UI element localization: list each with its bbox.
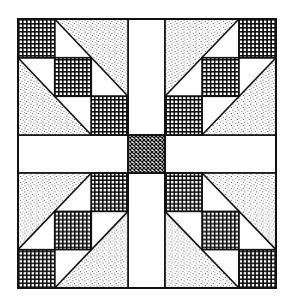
- horizontal-sash-left: [18, 135, 128, 173]
- vertical-sash-bottom: [128, 173, 165, 288]
- center-cornerstone: [128, 135, 165, 173]
- quadrant-bottom-right: [165, 173, 276, 288]
- quadrant-top-left: [18, 19, 128, 135]
- horizontal-sash-right: [165, 135, 276, 173]
- vertical-sash-top: [128, 19, 165, 135]
- quadrant-top-right: [165, 19, 276, 135]
- quadrant-bottom-left: [18, 173, 128, 288]
- quilt-block-drawing: [0, 0, 291, 307]
